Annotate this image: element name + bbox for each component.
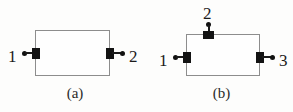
- port-pad-a-1: [32, 48, 40, 59]
- port-label-b-2: 2: [203, 5, 212, 22]
- port-label-b-3: 3: [279, 52, 288, 69]
- figure-canvas: 1 2 (a) 1 2 3 (b): [0, 0, 293, 112]
- block-rectangle-b: [186, 34, 260, 76]
- port-dot-a-2: [120, 51, 125, 56]
- caption-a: (a): [0, 86, 150, 101]
- subfigure-b: 1 2 3 (b): [150, 0, 293, 112]
- port-pad-b-2: [203, 31, 214, 39]
- caption-b: (b): [150, 86, 293, 101]
- port-dot-b-3: [270, 55, 275, 60]
- port-pad-b-1: [183, 52, 191, 63]
- block-rectangle-a: [35, 30, 110, 76]
- subfigure-a: 1 2 (a): [0, 0, 150, 112]
- port-label-a-2: 2: [129, 48, 138, 65]
- port-label-a-1: 1: [8, 48, 17, 65]
- port-label-b-1: 1: [159, 52, 168, 69]
